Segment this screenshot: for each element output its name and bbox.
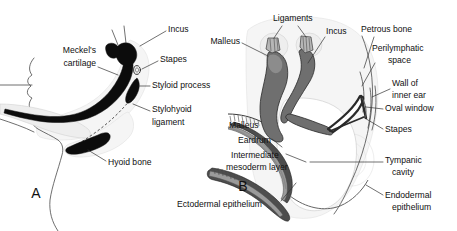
label-perilymphatic-space-line1: Perilymphatic [372,43,424,53]
stapes-inner-a [136,68,139,72]
panel-a-artwork [0,26,149,231]
leader-endodermal-epithelium [366,185,383,195]
label-tympanic-cavity-line2: cavity [392,167,415,177]
label-styloid-process: Styloid process [152,80,210,90]
label-endodermal-epithelium-line1: Endodermal [385,190,431,200]
leader-meckels-cartilage [98,67,118,75]
label-eardrum: Eardrum [238,135,271,145]
ligament-left-shape [266,38,280,53]
label-meckels-cartilage-line1: Meckel's [63,45,96,55]
label-intermediate-mesoderm-line1: Intermediate [231,150,279,160]
panel-a-ossicle-connector-2 [124,26,126,43]
label-meckels-cartilage-line2: cartilage [64,58,97,68]
label-malleus-top: Malleus [210,36,240,46]
label-stylohyoid-ligament-line2: ligament [152,117,185,127]
label-intermediate-mesoderm-line2: mesoderm layer [226,162,288,172]
label-perilymphatic-space-line2: space [388,55,411,65]
label-incus-b: Incus [326,26,347,36]
label-ectodermal-epithelium: Ectodermal epithelium [177,199,262,209]
figure-canvas: Incus Meckel's cartilage Stapes Styloid … [0,0,457,231]
leader-stylohyoid-ligament [133,104,150,111]
label-malleus-lower: Malleus [229,120,259,130]
label-tympanic-cavity-line1: Tympanic [385,155,422,165]
label-wall-of-inner-ear-line2: inner ear [392,90,426,100]
label-wall-of-inner-ear-line1: Wall of [392,78,419,88]
label-petrous-bone: Petrous bone [361,24,412,34]
label-hyoid-bone: Hyoid bone [108,157,152,167]
label-incus-a: Incus [168,24,189,34]
panel-a-ossicle-connector-1 [112,30,118,45]
label-ligaments: Ligaments [273,13,313,23]
label-oval-window: Oval window [385,103,435,113]
anatomical-figure: Incus Meckel's cartilage Stapes Styloid … [0,0,457,231]
malleus-shape-a [106,43,120,58]
leader-incus-a [140,31,166,46]
panel-b-artwork [207,17,378,222]
face-profile-outline [27,58,62,231]
label-endodermal-epithelium-line2: epithelium [392,202,431,212]
label-stapes-b: Stapes [385,124,412,134]
label-stylohyoid-ligament-line1: Stylohyoid [152,104,192,114]
label-stapes-a: Stapes [160,54,187,64]
panel-b-letter: B [238,178,247,194]
panel-a-letter: A [31,185,41,201]
